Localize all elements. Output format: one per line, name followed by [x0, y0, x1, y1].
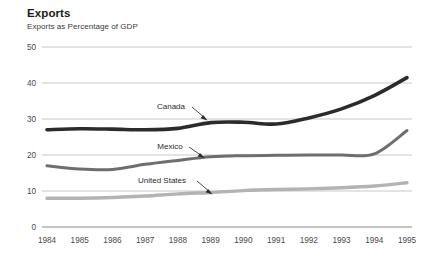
y-tick-label: 50	[27, 43, 37, 52]
x-tick-label: 1994	[365, 236, 384, 245]
annotation-label-united-states: United States	[138, 176, 186, 185]
x-tick-label: 1985	[71, 236, 90, 245]
x-tick-label: 1995	[398, 236, 417, 245]
y-axis-ticks: 50 40 30 20 10 0	[27, 43, 37, 232]
annotation-arrow-canada	[201, 115, 208, 120]
series-group	[47, 78, 407, 199]
y-tick-label: 30	[27, 115, 37, 124]
series-line-mexico	[47, 131, 407, 170]
series-line-canada	[47, 78, 407, 130]
x-tick-label: 1986	[103, 236, 122, 245]
x-tick-label: 1990	[234, 236, 253, 245]
x-tick-label: 1993	[332, 236, 351, 245]
annotation-label-mexico: Mexico	[157, 142, 183, 151]
x-tick-label: 1991	[267, 236, 286, 245]
gridlines	[42, 47, 412, 227]
y-tick-label: 40	[27, 79, 37, 88]
x-tick-label: 1988	[169, 236, 188, 245]
annotation-canada: Canada	[157, 102, 208, 120]
x-tick-label: 1992	[300, 236, 319, 245]
y-tick-label: 0	[31, 223, 36, 232]
x-tick-label: 1984	[38, 236, 57, 245]
annotation-label-canada: Canada	[157, 102, 186, 111]
x-tick-label: 1987	[136, 236, 155, 245]
chart-container: Exports Exports as Percentage of GDP 50 …	[0, 0, 426, 267]
chart-plot-area: 50 40 30 20 10 0 19841985198619871988198…	[0, 0, 426, 267]
series-line-united-states	[47, 183, 407, 199]
x-axis-ticks: 1984198519861987198819891990199119921993…	[38, 236, 417, 245]
y-tick-label: 20	[27, 151, 37, 160]
y-tick-label: 10	[27, 187, 37, 196]
annotation-mexico: Mexico	[157, 142, 204, 158]
x-tick-label: 1989	[202, 236, 221, 245]
